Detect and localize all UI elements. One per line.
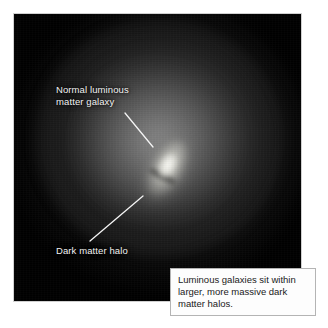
annotation-label-halo: Dark matter halo — [56, 245, 128, 257]
galaxy-disk — [139, 134, 195, 202]
caption-box: Luminous galaxies sit within larger, mor… — [170, 268, 316, 316]
galaxy-core — [154, 151, 181, 182]
astronomy-image-plate — [14, 14, 301, 301]
galaxy-dust-lane — [148, 166, 178, 186]
annotation-label-galaxy: Normal luminous matter galaxy — [56, 84, 129, 107]
plate-vignette — [14, 14, 301, 301]
dark-matter-halo-rim — [36, 20, 284, 256]
plate-grain-texture — [14, 14, 301, 301]
figure-root: Normal luminous matter galaxy Dark matte… — [0, 0, 328, 328]
caption-text: Luminous galaxies sit within larger, mor… — [178, 274, 296, 309]
luminous-galaxy — [115, 111, 220, 225]
galaxy-outer-glow — [127, 121, 207, 214]
dark-matter-halo-mid-glow — [38, 26, 270, 248]
